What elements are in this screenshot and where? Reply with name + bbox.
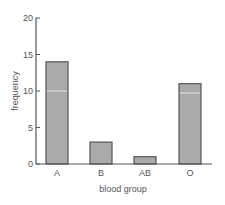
y-tick-label: 0 — [28, 159, 33, 169]
bar-ab — [134, 157, 156, 164]
y-axis: 05101520 — [23, 13, 40, 169]
x-tick-label: AB — [139, 168, 151, 178]
bar-chart: 05101520 ABABO blood group frequency — [0, 0, 225, 205]
x-tick-label: A — [54, 168, 60, 178]
y-axis-title: frequency — [10, 71, 20, 111]
x-tick-label: B — [98, 168, 104, 178]
x-tick-label: O — [186, 168, 193, 178]
y-tick-label: 15 — [23, 50, 33, 60]
x-axis-title: blood group — [99, 184, 147, 194]
bar-o — [179, 84, 201, 164]
bars-group — [46, 62, 201, 164]
bar-b — [90, 142, 112, 164]
y-tick-label: 20 — [23, 13, 33, 23]
y-tick-label: 10 — [23, 86, 33, 96]
x-axis: ABABO — [36, 164, 212, 178]
y-tick-label: 5 — [28, 123, 33, 133]
bar-a — [46, 62, 68, 164]
